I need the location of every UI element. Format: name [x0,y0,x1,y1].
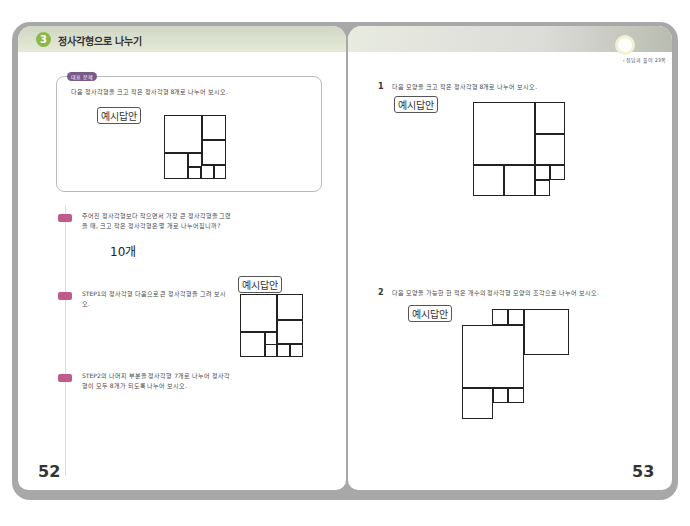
step3-badge [58,374,72,382]
section-number: 3 [36,32,51,47]
example-answer-label: 예시답안 [97,107,141,124]
step1-answer: 10개 [110,242,136,259]
step3-text: STEP2의 나머지 부분을 정사각형 7개로 나누어 정사각형이 모두 8개가… [82,371,232,391]
example-question: 다음 정사각형을 크고 작은 정사각형 8개로 나누어 보시오. [71,87,228,97]
left-page: 3 정사각형으로 나누기 대표 문제 다음 정사각형을 크고 작은 정사각형 8… [18,26,346,490]
problem2-answer-label: 예시답안 [408,305,452,322]
step2-answer-label: 예시답안 [238,276,282,293]
step2-badge [58,292,72,300]
step1-text: 주어진 정사각형보다 작으면서 가장 큰 정사각형을 그렸을 때, 크고 작은 … [82,211,232,231]
example-tag: 대표 문제 [67,72,97,81]
step1-badge [58,214,72,222]
problem1-answer-label: 예시답안 [394,96,438,113]
problem1-text: 다음 모양을 크고 작은 정사각형 8개로 나누어 보시오. [392,82,537,92]
flower-decoration [618,38,632,52]
step-guideline [65,206,66,476]
book-spread: 3 정사각형으로 나누기 대표 문제 다음 정사각형을 크고 작은 정사각형 8… [12,22,678,500]
answer-reference: › 정답과 풀이 23쪽 [623,56,666,63]
example-problem-card: 대표 문제 다음 정사각형을 크고 작은 정사각형 8개로 나누어 보시오. 예… [56,76,322,192]
section-title: 정사각형으로 나누기 [58,33,142,48]
right-page: › 정답과 풀이 23쪽 1 다음 모양을 크고 작은 정사각형 8개로 나누어… [348,26,672,490]
problem1-number: 1 [378,82,384,91]
page-number-right: 53 [632,462,654,481]
step2-text: STEP1의 정사각형 다음으로 큰 정사각형을 그려 보시오. [82,289,232,309]
page-number-left: 52 [38,462,60,481]
problem2-number: 2 [378,288,384,297]
problem2-text: 다음 모양을 가능한 한 적은 개수의 정사각형 모양의 조각으로 나누어 보시… [392,288,599,298]
